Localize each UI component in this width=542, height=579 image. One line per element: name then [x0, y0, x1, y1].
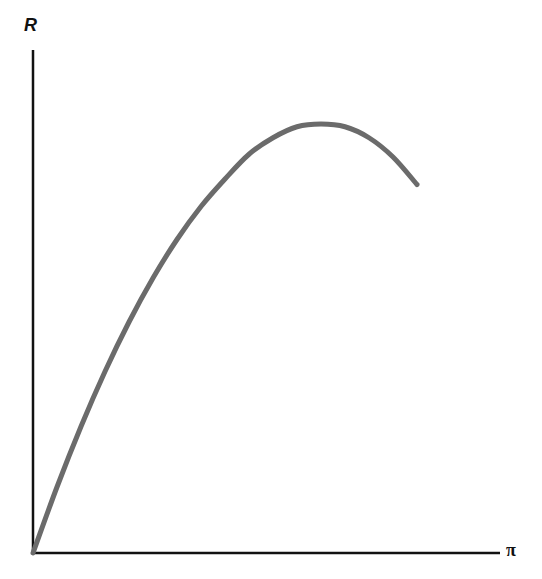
data-curve: [33, 124, 417, 553]
y-axis-label: R: [24, 15, 37, 36]
chart-canvas: [0, 0, 542, 579]
x-axis-label: π: [506, 540, 516, 561]
